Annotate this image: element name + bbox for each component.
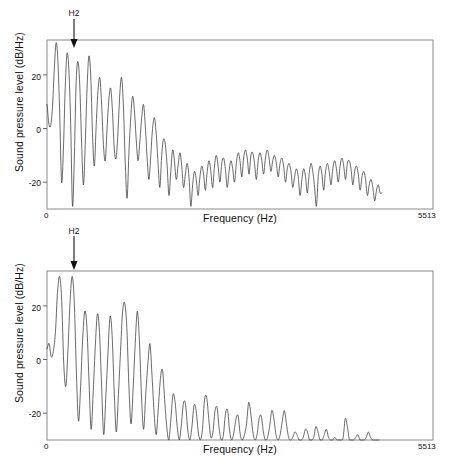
y-axis-title-top: Sound pressure level (dB/Hz)	[13, 17, 25, 187]
h2-annotation-label-bottom: H2	[62, 226, 86, 236]
y-tick-label-20-top: 20	[15, 72, 41, 82]
spectrum-panel-top: H2 Sound pressure level (dB/Hz) 20 0 -20…	[0, 0, 453, 231]
y-tick-label-neg20-top: -20	[15, 178, 41, 188]
y-tick-marks-bottom	[43, 306, 47, 413]
spectrum-trace-top	[47, 43, 382, 207]
y-axis-title-bottom: Sound pressure level (dB/Hz)	[13, 248, 25, 418]
y-tick-label-0-bottom: 0	[15, 356, 41, 366]
y-tick-label-neg20-bottom: -20	[15, 409, 41, 419]
h2-annotation-arrow-top	[71, 19, 78, 48]
h2-annotation-arrow-bottom	[71, 236, 78, 270]
spectrum-trace-bottom	[47, 276, 379, 440]
x-axis-title-top: Frequency (Hz)	[47, 212, 433, 224]
plot-area-top	[0, 0, 453, 231]
x-axis-title-bottom: Frequency (Hz)	[47, 443, 433, 455]
y-tick-label-0-top: 0	[15, 125, 41, 135]
plot-area-bottom	[0, 231, 453, 462]
y-tick-label-20-bottom: 20	[15, 303, 41, 313]
plot-frame-top	[47, 40, 433, 209]
y-tick-marks-top	[43, 75, 47, 182]
h2-annotation-label-top: H2	[62, 8, 86, 18]
spectrum-figure: H2 Sound pressure level (dB/Hz) 20 0 -20…	[0, 0, 453, 462]
spectrum-panel-bottom: H2 Sound pressure level (dB/Hz) 20 0 -20…	[0, 231, 453, 462]
